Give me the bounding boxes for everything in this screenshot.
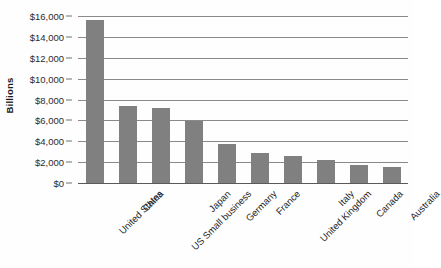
y-axis-tick-mark <box>66 141 72 142</box>
bar-slot <box>375 16 408 183</box>
x-axis-tick-label-text: France <box>273 188 302 217</box>
y-axis-tick-mark <box>66 183 72 184</box>
y-axis-title: Billions <box>0 0 20 190</box>
bar <box>185 121 203 183</box>
y-axis-tick-mark <box>66 162 72 163</box>
bar-slot <box>144 16 177 183</box>
bar <box>251 153 269 183</box>
x-axis-tick-label-text: Australia <box>407 188 441 222</box>
bar <box>218 144 236 183</box>
y-axis-tick-label: $8,000 <box>35 94 64 105</box>
x-axis-tick-label: France <box>273 188 302 217</box>
bar <box>152 108 170 183</box>
bar-slot <box>276 16 309 183</box>
bar <box>86 20 104 183</box>
x-axis-tick-labels: United StatesChinaUS Small businessJapan… <box>78 184 408 268</box>
x-axis-tick-label: Australia <box>407 188 441 222</box>
plot-area <box>78 16 408 183</box>
y-axis-tick-label: $16,000 <box>30 11 64 22</box>
y-axis-tick-mark <box>66 99 72 100</box>
x-axis-tick-label: Canada <box>373 188 404 219</box>
y-axis-tick-label: $6,000 <box>35 115 64 126</box>
y-axis-tick-mark <box>66 120 72 121</box>
bar-slot <box>243 16 276 183</box>
x-axis-tick-label-text: China <box>140 188 165 213</box>
y-axis-tick-label: $14,000 <box>30 31 64 42</box>
y-axis-tick-label: $4,000 <box>35 136 64 147</box>
bar <box>317 160 335 183</box>
bar-slot <box>177 16 210 183</box>
x-axis-tick-label: China <box>140 188 165 213</box>
bar-slot <box>342 16 375 183</box>
y-axis-tick-label: $10,000 <box>30 73 64 84</box>
bar <box>350 165 368 183</box>
bar-slot <box>210 16 243 183</box>
y-axis-tick-mark <box>66 16 72 17</box>
bar <box>284 156 302 183</box>
x-axis-tick-label-text: Canada <box>373 188 404 219</box>
y-axis-tick-labels: $16,000$14,000$12,000$10,000$8,000$6,000… <box>18 16 72 183</box>
bar-slot <box>111 16 144 183</box>
bars-group <box>78 16 408 183</box>
bar <box>383 167 401 183</box>
y-axis-title-label: Billions <box>5 77 16 113</box>
y-axis-tick-label: $0 <box>53 178 64 189</box>
y-axis-tick-mark <box>66 57 72 58</box>
y-axis-tick-mark <box>66 36 72 37</box>
y-axis-tick-label: $12,000 <box>30 52 64 63</box>
y-axis-tick-label: $2,000 <box>35 157 64 168</box>
bar-slot <box>78 16 111 183</box>
y-axis-tick-mark <box>66 78 72 79</box>
bar-slot <box>309 16 342 183</box>
bar <box>119 106 137 183</box>
